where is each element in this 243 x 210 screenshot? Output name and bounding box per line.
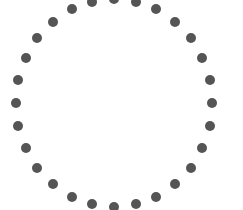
dotted-circle-spinner: [0, 0, 243, 210]
spinner-dot: [32, 33, 42, 43]
spinner-dot: [151, 192, 161, 202]
spinner-dot: [13, 75, 23, 85]
spinner-dot: [13, 121, 23, 131]
spinner-dot: [87, 199, 97, 209]
spinner-dot: [205, 75, 215, 85]
spinner-dot: [48, 179, 58, 189]
spinner-dot: [197, 53, 207, 63]
spinner-dot: [109, 0, 119, 4]
spinner-dot: [67, 4, 77, 14]
spinner-dot: [21, 143, 31, 153]
spinner-dot: [170, 179, 180, 189]
spinner-dot: [197, 143, 207, 153]
spinner-dot: [151, 4, 161, 14]
spinner-dot: [205, 121, 215, 131]
spinner-dot: [186, 33, 196, 43]
spinner-dot: [207, 98, 217, 108]
spinner-dot: [48, 17, 58, 27]
spinner-dot: [186, 163, 196, 173]
spinner-dot: [131, 199, 141, 209]
spinner-dot: [109, 202, 119, 210]
screenshot-canvas: [0, 0, 243, 210]
spinner-dot: [131, 0, 141, 7]
spinner-dot: [11, 98, 21, 108]
spinner-dot: [87, 0, 97, 7]
spinner-dot: [21, 53, 31, 63]
spinner-dot: [170, 17, 180, 27]
spinner-dot: [32, 163, 42, 173]
spinner-dot: [67, 192, 77, 202]
